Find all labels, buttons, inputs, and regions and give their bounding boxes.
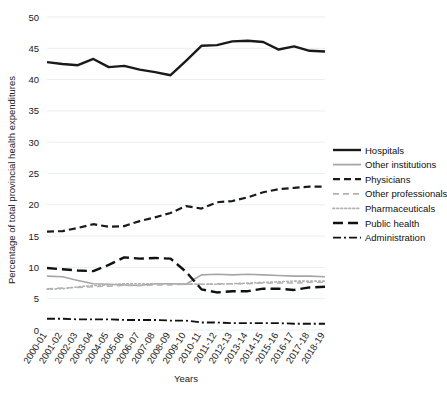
series-line-hospitals (47, 41, 325, 75)
line-chart: 05101520253035404550 2000-012001-022002-… (0, 0, 447, 393)
y-tick-label: 40 (28, 74, 39, 85)
series-line-physicians (47, 187, 325, 232)
y-tick-label: 45 (28, 43, 39, 54)
y-axis-tick-labels: 05101520253035404550 (28, 12, 39, 336)
legend-label: Public health (365, 218, 419, 229)
y-tick-label: 50 (28, 12, 39, 23)
y-tick-label: 10 (28, 262, 39, 273)
data-series-layer (47, 41, 325, 324)
y-tick-label: 5 (34, 293, 39, 304)
y-tick-label: 20 (28, 199, 39, 210)
chart-canvas: 05101520253035404550 2000-012001-022002-… (0, 0, 447, 393)
y-axis-title: Percentage of total provincial health ex… (6, 76, 17, 284)
legend: HospitalsOther institutionsPhysiciansOth… (333, 145, 447, 244)
y-tick-label: 30 (28, 137, 39, 148)
legend-label: Other institutions (365, 159, 437, 170)
x-axis-tick-labels: 2000-012001-022002-032003-042004-052005-… (21, 330, 327, 365)
series-line-administration (47, 319, 325, 324)
y-tick-label: 15 (28, 231, 39, 242)
y-tick-label: 25 (28, 168, 39, 179)
legend-label: Physicians (365, 174, 411, 185)
legend-label: Hospitals (365, 145, 404, 156)
legend-label: Administration (365, 232, 425, 243)
x-axis-title: Years (174, 373, 198, 384)
y-tick-label: 35 (28, 105, 39, 116)
legend-label: Pharmaceuticals (365, 203, 435, 214)
legend-label: Other professionals (365, 188, 447, 199)
